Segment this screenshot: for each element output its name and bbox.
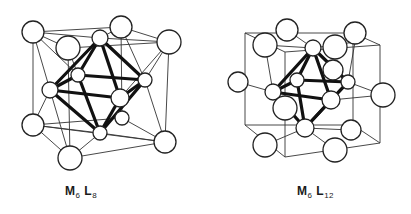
caption-m6l12: M6 L12 bbox=[297, 184, 334, 200]
atom-sphere bbox=[253, 33, 277, 57]
atom-sphere bbox=[371, 83, 395, 107]
atom-sphere bbox=[341, 120, 361, 140]
caption-metal-symbol: M bbox=[65, 184, 76, 198]
atom-sphere bbox=[341, 75, 355, 89]
figure-m6l8: M6 L8 bbox=[0, 0, 205, 214]
bond-line bbox=[70, 142, 165, 158]
atom-sphere bbox=[322, 91, 340, 109]
caption-metal-symbol: M bbox=[297, 184, 308, 198]
atom-sphere bbox=[290, 73, 304, 87]
caption-ligand-count: 12 bbox=[324, 191, 334, 200]
atom-sphere bbox=[276, 19, 298, 41]
bond-line bbox=[68, 48, 70, 158]
atom-sphere bbox=[93, 126, 107, 140]
atom-sphere bbox=[56, 36, 80, 60]
atom-sphere bbox=[154, 131, 176, 153]
atom-sphere bbox=[323, 35, 347, 59]
atom-sphere bbox=[323, 60, 343, 80]
atom-sphere bbox=[138, 73, 152, 87]
atom-sphere bbox=[253, 133, 277, 157]
atom-sphere bbox=[273, 96, 297, 120]
atom-sphere bbox=[110, 16, 132, 38]
atom-sphere bbox=[111, 89, 129, 107]
bond-line bbox=[68, 42, 169, 48]
atom-sphere bbox=[92, 30, 108, 46]
atom-sphere bbox=[42, 82, 58, 98]
bond-line bbox=[165, 42, 169, 142]
caption-ligand-symbol: L bbox=[80, 184, 92, 198]
atom-sphere bbox=[323, 138, 347, 162]
atom-sphere bbox=[58, 146, 82, 170]
bond-line bbox=[33, 27, 121, 32]
atom-sphere bbox=[115, 111, 129, 125]
caption-ligand-count: 8 bbox=[92, 191, 97, 200]
atom-sphere bbox=[22, 114, 44, 136]
atom-sphere bbox=[71, 68, 85, 82]
caption-m6l8: M6 L8 bbox=[65, 184, 97, 200]
atom-sphere bbox=[228, 72, 248, 92]
m6l8-structure-diagram bbox=[0, 0, 205, 214]
atom-sphere bbox=[305, 40, 321, 56]
atom-sphere bbox=[344, 22, 366, 44]
caption-ligand-symbol: L bbox=[312, 184, 324, 198]
atom-sphere bbox=[22, 21, 44, 43]
m6l12-structure-diagram bbox=[205, 0, 411, 214]
atom-sphere bbox=[157, 30, 181, 54]
atom-sphere bbox=[296, 119, 314, 137]
figure-m6l12: M6 L12 bbox=[205, 0, 411, 214]
metal-metal-bond bbox=[297, 80, 348, 82]
